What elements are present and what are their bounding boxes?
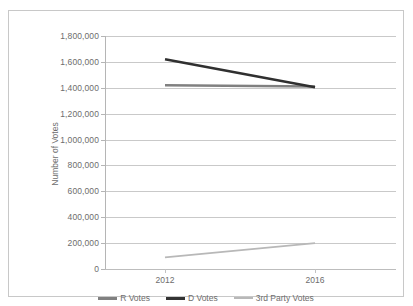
y-tick-label-400000: 400,000 [68,212,99,222]
y-tick-label-1800000: 1,800,000 [60,31,99,41]
legend-item-3rd-party-votes[interactable]: 3rd Party Votes [234,293,314,303]
legend-label-3rd-party-votes: 3rd Party Votes [256,293,314,303]
y-tick-label-1200000: 1,200,000 [60,109,99,119]
x-tick-2016 [315,269,316,273]
y-tick-label-1000000: 1,000,000 [60,135,99,145]
x-tick-2012 [165,269,166,273]
legend-swatch-icon-3rd-party-votes [234,297,253,299]
y-tick-0 [101,269,105,270]
gridline-baseline-0 [105,269,396,270]
y-tick-label-600000: 600,000 [68,186,99,196]
series-line-d-votes [165,59,315,87]
chart-frame: Number of Votes 1,800,000 1,600,000 1,40… [8,10,404,297]
y-tick-label-1400000: 1,400,000 [60,83,99,93]
legend-item-d-votes[interactable]: D Votes [166,293,218,303]
legend-item-r-votes[interactable]: R Votes [98,293,150,303]
legend-label-d-votes: D Votes [188,293,218,303]
x-tick-label-2016: 2016 [306,275,325,285]
legend-swatch-icon-r-votes [98,297,117,300]
y-tick-label-0: 0 [94,264,99,274]
chart-legend: R Votes D Votes 3rd Party Votes [9,293,403,303]
y-tick-label-800000: 800,000 [68,160,99,170]
series-svg [105,36,396,269]
series-line-3rd-party-votes [165,243,315,257]
y-tick-label-200000: 200,000 [68,238,99,248]
plot-area: 1,800,000 1,600,000 1,400,000 1,200,000 … [105,36,396,269]
y-axis-title: Number of Votes [50,122,60,185]
y-tick-label-1600000: 1,600,000 [60,57,99,67]
legend-swatch-icon-d-votes [166,297,185,300]
x-tick-label-2012: 2012 [156,275,175,285]
legend-label-r-votes: R Votes [120,293,150,303]
series-line-r-votes [165,85,315,86]
